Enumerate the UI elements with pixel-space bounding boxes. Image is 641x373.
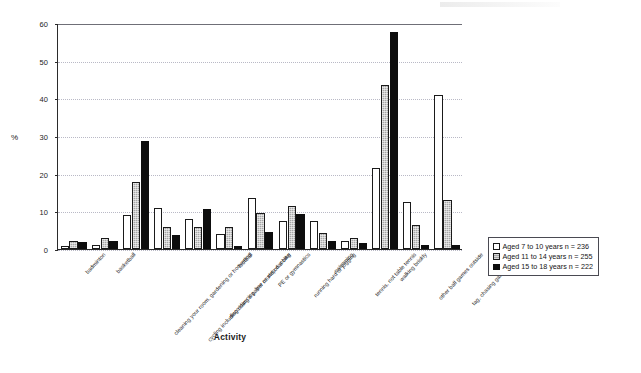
bar[interactable] [225, 227, 233, 249]
legend-item[interactable]: Aged 15 to 18 years n = 222 [493, 262, 593, 271]
x-axis-title: Activity [0, 332, 460, 342]
y-axis-title: % [11, 133, 18, 142]
bar[interactable] [381, 85, 389, 249]
x-tick-label: swimming [332, 251, 354, 274]
x-tick-label: badminton [84, 251, 107, 275]
bar[interactable] [163, 227, 171, 249]
bar[interactable] [172, 235, 180, 249]
bar[interactable] [434, 95, 442, 249]
bar[interactable] [412, 225, 420, 249]
bar[interactable] [328, 241, 336, 249]
y-tick-label: 30 [22, 133, 48, 142]
bar-group [338, 24, 369, 249]
legend-label: Aged 15 to 18 years n = 222 [503, 262, 594, 271]
bar[interactable] [109, 241, 117, 249]
bar[interactable] [154, 208, 162, 249]
bar[interactable] [194, 227, 202, 249]
bar[interactable] [341, 241, 349, 249]
bar-group [151, 24, 182, 249]
bar[interactable] [265, 232, 273, 249]
bar[interactable] [203, 209, 211, 249]
x-tick-label: basketball [115, 251, 137, 274]
plot-area [57, 24, 462, 250]
bar-group [214, 24, 245, 249]
bar[interactable] [132, 182, 140, 249]
bar[interactable] [185, 219, 193, 249]
legend-label: Aged 7 to 10 years n = 236 [503, 242, 590, 251]
y-tick-label: 10 [22, 208, 48, 217]
bar[interactable] [92, 245, 100, 249]
bar[interactable] [256, 213, 264, 249]
bar[interactable] [443, 200, 451, 249]
bar-group [370, 24, 401, 249]
legend-swatch-icon [493, 264, 500, 271]
bar[interactable] [141, 141, 149, 249]
bar[interactable] [61, 246, 69, 249]
legend-item[interactable]: Aged 11 to 14 years n = 255 [493, 252, 593, 261]
bar[interactable] [69, 241, 77, 249]
legend-label: Aged 11 to 14 years n = 255 [503, 252, 593, 261]
bar-group [401, 24, 432, 249]
legend-swatch-icon [493, 243, 500, 250]
bar-group [276, 24, 307, 249]
bar[interactable] [101, 238, 109, 249]
y-tick-label: 40 [22, 95, 48, 104]
bar-group [58, 24, 89, 249]
y-tick-label: 0 [22, 246, 48, 255]
bar[interactable] [216, 234, 224, 249]
x-axis-tick-labels: badmintonbasketballcleaning your room, g… [57, 250, 462, 345]
bar-group [432, 24, 463, 249]
bar[interactable] [372, 168, 380, 249]
bar[interactable] [359, 243, 367, 249]
bar[interactable] [452, 245, 460, 249]
bar[interactable] [248, 198, 256, 249]
bar-group [307, 24, 338, 249]
legend-swatch-icon [493, 253, 500, 260]
bar-group [183, 24, 214, 249]
bar[interactable] [421, 245, 429, 249]
scan-artifact [440, 2, 560, 7]
bar[interactable] [310, 221, 318, 249]
bar[interactable] [78, 242, 86, 249]
bar[interactable] [279, 221, 287, 249]
y-tick-label: 60 [22, 20, 48, 29]
bars-layer [58, 24, 462, 249]
bar[interactable] [403, 202, 411, 249]
bar[interactable] [390, 32, 398, 249]
bar[interactable] [288, 206, 296, 249]
bar[interactable] [123, 215, 131, 249]
chart-legend: Aged 7 to 10 years n = 236 Aged 11 to 14… [488, 237, 599, 276]
y-tick-label: 20 [22, 170, 48, 179]
bar-chart: % 0102030405060 badmintonbasketballclean… [0, 0, 641, 373]
bar[interactable] [234, 246, 242, 249]
x-tick-label: tennis, not table tennis [374, 251, 417, 297]
bar[interactable] [296, 214, 304, 249]
legend-item[interactable]: Aged 7 to 10 years n = 236 [493, 242, 593, 251]
bar[interactable] [319, 233, 327, 249]
bar-group [245, 24, 276, 249]
y-tick-label: 50 [22, 57, 48, 66]
bar-group [120, 24, 151, 249]
x-tick-label: football [237, 251, 254, 269]
bar[interactable] [350, 238, 358, 249]
bar-group [89, 24, 120, 249]
